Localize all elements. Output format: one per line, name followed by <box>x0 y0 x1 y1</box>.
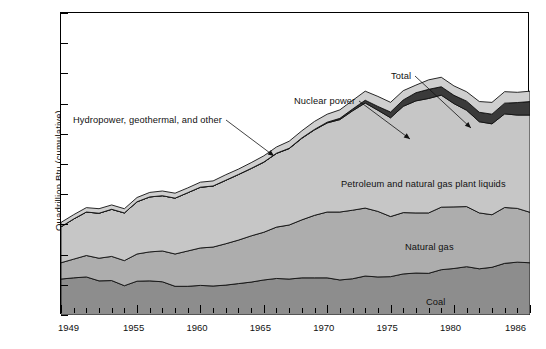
x-axis-minor-tick <box>289 308 290 313</box>
x-axis-major-tick <box>137 305 138 313</box>
series-annotation-label: Natural gas <box>405 242 454 252</box>
x-axis-major-tick <box>327 305 328 313</box>
x-axis-tick-label: 1949 <box>58 322 79 333</box>
x-axis-minor-tick <box>276 308 277 313</box>
series-annotation-label: Coal <box>426 297 446 307</box>
y-axis-tick <box>61 164 68 165</box>
x-axis-major-tick <box>200 305 201 313</box>
x-axis-tick-label: 1986 <box>505 322 526 333</box>
x-axis-major-tick <box>530 305 531 313</box>
x-axis-tick-label: 1965 <box>250 322 271 333</box>
x-axis-minor-tick <box>378 308 379 313</box>
x-axis-minor-tick <box>441 308 442 313</box>
x-axis-major-tick <box>264 305 265 313</box>
y-axis-tick <box>61 285 68 286</box>
x-axis-minor-tick <box>175 308 176 313</box>
series-annotation-label: Hydropower, geothermal, and other <box>73 115 222 125</box>
x-axis-minor-tick <box>188 308 189 313</box>
x-axis-minor-tick <box>429 308 430 313</box>
x-axis-minor-tick <box>467 308 468 313</box>
x-axis-tick-label: 1960 <box>186 322 207 333</box>
x-axis-minor-tick <box>365 308 366 313</box>
y-axis-tick <box>61 315 68 316</box>
x-axis-minor-tick <box>479 308 480 313</box>
x-axis-minor-tick <box>403 308 404 313</box>
x-axis-minor-tick <box>238 308 239 313</box>
y-axis-tick <box>61 104 68 105</box>
x-axis-minor-tick <box>416 308 417 313</box>
y-axis-tick <box>61 73 68 74</box>
y-axis-tick <box>61 13 68 14</box>
y-axis-tick <box>61 224 68 225</box>
y-axis-tick <box>61 255 68 256</box>
x-axis-minor-tick <box>112 308 113 313</box>
x-axis-minor-tick <box>99 308 100 313</box>
plot-area: Hydropower, geothermal, and otherNuclear… <box>60 12 529 314</box>
series-annotation-label: Petroleum and natural gas plant liquids <box>341 179 506 189</box>
x-axis-major-tick <box>61 305 62 313</box>
x-axis-minor-tick <box>162 308 163 313</box>
x-axis-minor-tick <box>150 308 151 313</box>
y-axis-tick <box>61 134 68 135</box>
x-axis-minor-tick <box>124 308 125 313</box>
x-axis-minor-tick <box>213 308 214 313</box>
series-annotation-label: Nuclear power <box>294 96 355 106</box>
series-annotation-label: Total <box>391 71 411 81</box>
x-axis-tick-label: 1975 <box>377 322 398 333</box>
x-axis-minor-tick <box>302 308 303 313</box>
x-axis-tick-label: 1955 <box>123 322 144 333</box>
x-axis-minor-tick <box>492 308 493 313</box>
x-axis-minor-tick <box>315 308 316 313</box>
x-axis-minor-tick <box>86 308 87 313</box>
x-axis-minor-tick <box>353 308 354 313</box>
x-axis-tick-label: 1970 <box>313 322 334 333</box>
x-axis-tick-label: 1980 <box>440 322 461 333</box>
y-axis-tick <box>61 194 68 195</box>
x-axis-minor-tick <box>517 308 518 313</box>
x-axis-minor-tick <box>505 308 506 313</box>
y-axis-tick <box>61 43 68 44</box>
x-axis-major-tick <box>391 305 392 313</box>
x-axis-major-tick <box>454 305 455 313</box>
x-axis-minor-tick <box>74 308 75 313</box>
x-axis-minor-tick <box>226 308 227 313</box>
chart-figure: Quadrillion Btu (cumulative) 01020304050… <box>0 0 546 349</box>
annotation-leader-line <box>226 120 274 156</box>
stacked-area-svg <box>61 13 530 315</box>
x-axis-minor-tick <box>251 308 252 313</box>
x-axis-minor-tick <box>340 308 341 313</box>
